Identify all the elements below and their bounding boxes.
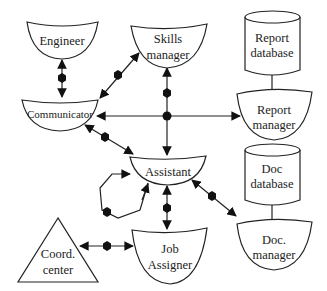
report-manager-label-1: Report xyxy=(257,103,292,117)
hexagon-icon xyxy=(103,207,111,217)
node-coord-center: Coord. center xyxy=(18,218,98,282)
doc-database-label-2: database xyxy=(250,177,293,191)
hexagon-icon xyxy=(114,70,122,80)
node-report-manager: Report manager xyxy=(237,89,312,140)
hexagon-icon xyxy=(58,73,66,83)
node-doc-manager: Doc. manager xyxy=(237,219,312,270)
hexagon-icon xyxy=(208,191,216,201)
node-assistant: Assistant xyxy=(130,156,206,185)
hexagon-icon xyxy=(163,203,171,213)
edges xyxy=(58,53,272,251)
junction-dot xyxy=(163,112,172,121)
coord-center-label-2: center xyxy=(43,263,74,277)
node-doc-database: Doc database xyxy=(245,144,300,205)
doc-database-label-1: Doc xyxy=(262,162,283,176)
report-database-label-1: Report xyxy=(255,31,290,45)
hexagon-icon xyxy=(101,132,109,142)
hexagon-icon xyxy=(163,88,171,98)
report-database-label-2: database xyxy=(250,46,293,60)
node-engineer: Engineer xyxy=(27,22,98,59)
job-assigner-label-1: Job xyxy=(161,242,178,256)
engineer-label: Engineer xyxy=(39,34,85,48)
hexagon-icon xyxy=(103,241,111,251)
coord-center-label-1: Coord. xyxy=(41,247,75,261)
report-manager-label-2: manager xyxy=(252,118,296,132)
skills-manager-label-1: Skills xyxy=(154,32,183,46)
communicator-label: Communicator xyxy=(27,108,93,120)
skills-manager-label-2: manager xyxy=(146,48,190,62)
node-skills-manager: Skills manager xyxy=(131,24,207,68)
assistant-label: Assistant xyxy=(145,165,191,179)
node-job-assigner: Job Assigner xyxy=(132,228,207,284)
agent-architecture-diagram: Engineer Skills manager Report database … xyxy=(0,0,327,291)
node-report-database: Report database xyxy=(245,11,300,75)
job-assigner-label-2: Assigner xyxy=(148,258,193,272)
self-loop-arrowhead xyxy=(142,184,148,200)
doc-manager-label-1: Doc. xyxy=(262,233,286,247)
doc-manager-label-2: manager xyxy=(252,248,296,262)
